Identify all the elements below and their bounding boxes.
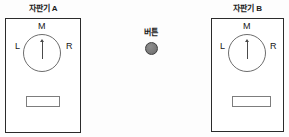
dial-a-label-left: L	[15, 42, 20, 51]
dial-a-needle[interactable]	[42, 42, 43, 59]
dial-a-label-right: R	[66, 42, 73, 51]
dial-b-needle[interactable]	[247, 42, 248, 59]
button-label: 버튼	[133, 26, 169, 37]
vending-machine-diagram: 자판기 A L M R 버튼 자판기 B L	[0, 0, 289, 137]
dial-b-label-middle: M	[243, 22, 251, 31]
vending-machine-b: 자판기 B L M R	[211, 2, 284, 132]
dispense-slot-a[interactable]	[26, 96, 60, 107]
press-button[interactable]	[145, 42, 158, 55]
dispense-slot-b[interactable]	[232, 96, 271, 107]
dial-b[interactable]: L M R	[212, 19, 283, 81]
vending-machine-a: 자판기 A L M R	[5, 2, 81, 133]
vending-machine-a-body: L M R	[5, 18, 81, 133]
vending-machine-a-title: 자판기 A	[5, 2, 81, 13]
button-group: 버튼	[133, 26, 169, 66]
dial-b-label-right: R	[270, 42, 277, 51]
dial-a[interactable]: L M R	[6, 19, 80, 81]
dial-b-label-left: L	[220, 42, 225, 51]
dial-a-label-middle: M	[38, 22, 46, 31]
vending-machine-b-title: 자판기 B	[211, 2, 284, 13]
vending-machine-b-body: L M R	[211, 18, 284, 132]
